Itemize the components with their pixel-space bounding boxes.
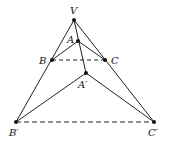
point-A	[76, 39, 80, 43]
projection-diagram: V A B C A′ B′ C′	[0, 0, 172, 143]
point-C	[103, 58, 107, 62]
point-B-prime	[14, 120, 18, 124]
point-A-prime	[84, 71, 88, 75]
label-C-prime: C′	[148, 127, 159, 138]
point-C-prime	[152, 120, 156, 124]
point-B	[50, 58, 54, 62]
label-B: B	[38, 55, 46, 66]
segment-A1-B1	[16, 73, 86, 122]
label-V: V	[70, 5, 79, 16]
label-B-prime: B′	[8, 127, 19, 138]
label-A: A	[66, 34, 74, 45]
label-C: C	[111, 55, 119, 66]
label-A-prime: A′	[77, 79, 88, 90]
segment-A1-C1	[86, 73, 154, 122]
segment-V-B1	[16, 20, 74, 122]
point-V	[72, 18, 76, 22]
